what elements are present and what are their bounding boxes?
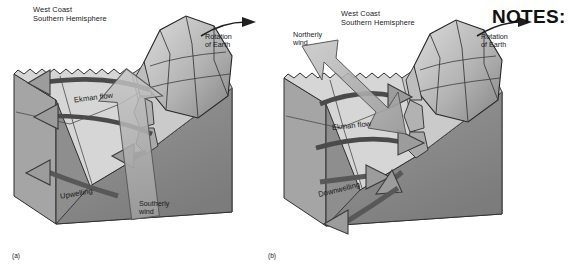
notes-label: NOTES: [492, 6, 566, 28]
panel-a-wind-label: Southerly wind [139, 200, 169, 217]
panel-b-rotation-label: Rotation of Earth [481, 33, 508, 50]
panel-a-rotation-label: Rotation of Earth [205, 33, 232, 50]
panel-b-title: West Coast Southern Hemisphere [341, 10, 415, 27]
panel-a-upwelling: West Coast Southern Hemisphere Rotation … [0, 0, 286, 280]
panel-a-label: (a) [12, 252, 20, 260]
panel-a-illustration [0, 0, 286, 280]
panel-b-label: (b) [268, 252, 276, 260]
panel-a-title: West Coast Southern Hemisphere [33, 6, 107, 23]
figure-coastal-ekman-transport: West Coast Southern Hemisphere Rotation … [0, 0, 573, 280]
panel-b-downwelling: West Coast Southern Hemisphere Rotation … [276, 0, 562, 280]
panel-b-wind-label: Northerly wind [293, 31, 322, 48]
